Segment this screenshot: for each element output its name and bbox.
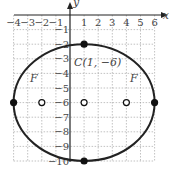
- focus-label-left: F: [29, 72, 38, 85]
- x-tick-label: −3: [20, 17, 35, 28]
- focus-label-right: F: [129, 72, 138, 85]
- y-tick-label: −5: [54, 83, 69, 94]
- vertex-point: [81, 41, 87, 47]
- x-tick-label: 2: [95, 17, 101, 28]
- ellipse-chart: x y −4−3−2−1123456−1−2−3−4−5−6−7−8−9−10 …: [0, 0, 171, 180]
- y-axis-label: y: [72, 0, 80, 9]
- x-tick-label: 6: [151, 17, 157, 28]
- y-tick-label: −8: [54, 126, 69, 137]
- y-tick-label: −3: [54, 53, 69, 64]
- y-tick-label: −9: [54, 141, 69, 152]
- vertex-point: [11, 100, 17, 106]
- open-point: [81, 100, 87, 106]
- x-tick-label: −4: [6, 17, 21, 28]
- x-tick-label: 1: [81, 17, 87, 28]
- y-tick-label: −4: [54, 68, 69, 79]
- grid: [14, 15, 155, 161]
- x-tick-label: 3: [109, 17, 115, 28]
- center-label: C(1, −6): [74, 56, 121, 69]
- open-point: [123, 100, 129, 106]
- vertex-point: [81, 158, 87, 164]
- y-tick-label: −1: [54, 24, 69, 35]
- x-axis-label: x: [163, 9, 170, 22]
- x-tick-label: 4: [123, 17, 129, 28]
- y-tick-label: −6: [54, 97, 69, 108]
- vertex-point: [152, 100, 158, 106]
- y-tick-label: −7: [54, 112, 69, 123]
- x-tick-label: −2: [34, 17, 49, 28]
- x-tick-label: 5: [137, 17, 143, 28]
- open-point: [39, 100, 45, 106]
